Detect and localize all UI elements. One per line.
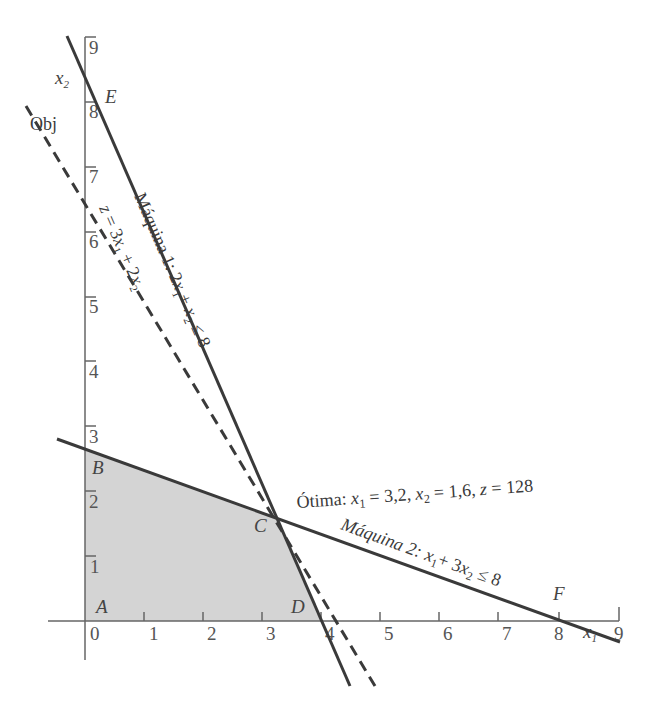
linear-programming-chart: 0 1 2 3 4 5 6 7 8 9 1 2 3 4 5 6 7 8 9 x2… bbox=[0, 0, 662, 727]
svg-text:6: 6 bbox=[89, 231, 99, 252]
point-label-e: E bbox=[104, 86, 117, 107]
point-label-f: F bbox=[552, 583, 565, 604]
y-axis-label: x2 bbox=[54, 67, 69, 90]
point-label-c: C bbox=[254, 515, 267, 536]
optimum-annotation: Ótima: x1 = 3,2, x2 = 1,6, z = 128 bbox=[296, 475, 534, 515]
svg-text:5: 5 bbox=[384, 623, 394, 644]
svg-text:5: 5 bbox=[89, 296, 99, 317]
feasible-region bbox=[85, 448, 322, 621]
svg-text:9: 9 bbox=[89, 37, 99, 58]
objective-label: Obj bbox=[30, 114, 57, 134]
svg-text:2: 2 bbox=[207, 623, 217, 644]
point-label-d: D bbox=[290, 596, 305, 617]
svg-text:3: 3 bbox=[89, 426, 99, 447]
svg-text:7: 7 bbox=[89, 166, 99, 187]
svg-text:1: 1 bbox=[90, 556, 100, 577]
svg-text:8: 8 bbox=[554, 623, 564, 644]
machine-2-label: Máquina 2: x1+ 3x2 ≤ 8 bbox=[337, 514, 504, 594]
svg-text:4: 4 bbox=[89, 361, 99, 382]
y-tick-labels: 1 2 3 4 5 6 7 8 9 bbox=[89, 37, 100, 577]
svg-text:6: 6 bbox=[443, 623, 453, 644]
x-tick-labels: 0 1 2 3 4 5 6 7 8 9 bbox=[90, 623, 624, 644]
svg-text:3: 3 bbox=[266, 623, 276, 644]
point-label-a: A bbox=[94, 596, 108, 617]
svg-text:1: 1 bbox=[149, 623, 159, 644]
svg-text:2: 2 bbox=[89, 491, 99, 512]
point-label-b: B bbox=[92, 457, 104, 478]
svg-text:7: 7 bbox=[502, 623, 512, 644]
svg-text:0: 0 bbox=[90, 623, 100, 644]
